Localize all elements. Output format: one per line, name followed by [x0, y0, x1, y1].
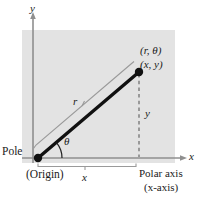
horizontal-leg-label: x [82, 172, 87, 183]
y-axis-label: y [30, 3, 35, 14]
pole-dot [34, 154, 42, 162]
radius-label: r [73, 96, 77, 107]
point-cartesian-label: (x, y) [140, 59, 163, 70]
pole-label: Pole [2, 146, 22, 158]
vertical-leg-label: y [145, 108, 150, 119]
polar-axis-label: Polar axis [139, 168, 183, 179]
point-polar-label: (r, θ) [140, 45, 161, 56]
polar-axis-alt-label: (x-axis) [144, 182, 178, 193]
polar-coordinate-diagram: y x (r, θ) (x, y) r θ y x Pole (Origin) … [0, 0, 202, 199]
angle-label: θ [64, 136, 69, 147]
x-axis-label: x [189, 151, 194, 162]
origin-label: (Origin) [26, 169, 64, 181]
